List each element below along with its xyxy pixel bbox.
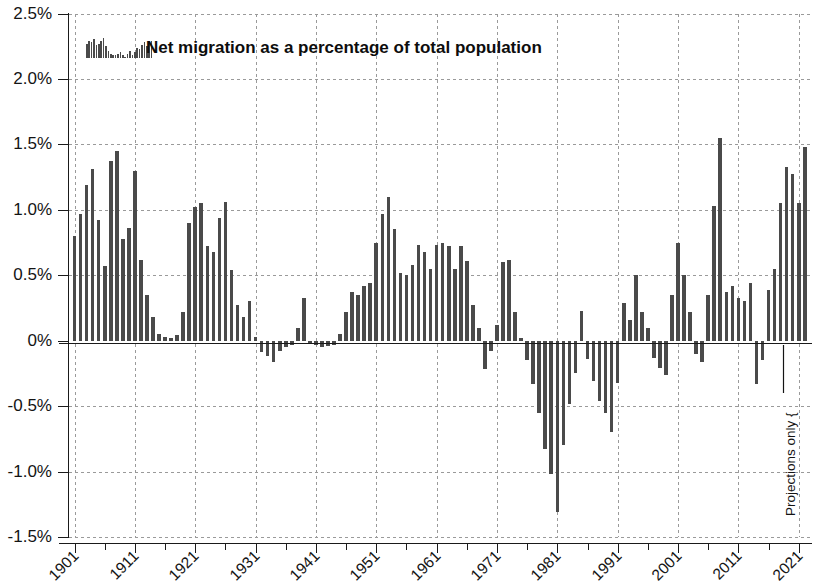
y-axis-tick-label: -0.5% — [8, 396, 52, 415]
bar — [471, 305, 475, 340]
y-axis-tick-label: 2.0% — [13, 69, 52, 88]
bar — [580, 311, 584, 341]
bar — [459, 246, 463, 340]
bar — [368, 283, 372, 341]
bar — [109, 161, 113, 340]
bar — [151, 317, 155, 341]
bar — [489, 341, 493, 351]
bar — [706, 295, 710, 341]
legend-icon-bar — [96, 45, 98, 58]
bar — [296, 328, 300, 341]
bar — [163, 337, 167, 341]
bar — [712, 206, 716, 341]
gridlines-group — [69, 15, 813, 538]
bar — [145, 295, 149, 341]
legend-icon-bar — [108, 51, 110, 58]
bar — [411, 265, 415, 341]
bar — [731, 286, 735, 341]
bar — [181, 312, 185, 341]
legend-icon-bar — [103, 38, 105, 58]
bar — [773, 269, 777, 341]
legend-icon-bar — [124, 57, 126, 58]
bar — [507, 260, 511, 341]
bar — [187, 223, 191, 341]
bar — [224, 202, 228, 341]
bar — [622, 303, 626, 341]
legend-icon-bar — [141, 45, 143, 58]
bar — [242, 317, 246, 341]
bar — [797, 203, 801, 340]
y-axis-tick-label: 1.0% — [13, 200, 52, 219]
bar — [260, 341, 264, 353]
legend-icon-bar — [112, 55, 114, 58]
bar — [616, 341, 620, 383]
bar — [417, 245, 421, 341]
bar — [356, 295, 360, 341]
bar — [556, 341, 560, 512]
bar — [374, 243, 378, 341]
bar — [453, 269, 457, 341]
bar — [779, 203, 783, 340]
y-axis-tick-label: -1.0% — [8, 462, 52, 481]
bar — [634, 275, 638, 340]
bar — [640, 312, 644, 341]
mini-bar-chart-icon — [86, 38, 152, 58]
bar — [598, 341, 602, 401]
bar — [121, 239, 125, 341]
bar — [568, 341, 572, 404]
bar — [592, 341, 596, 382]
bar — [791, 174, 795, 340]
bar — [513, 312, 517, 341]
bar — [133, 171, 137, 341]
legend-icon-bar — [132, 55, 134, 58]
bar — [199, 203, 203, 340]
legend-icon-bar — [129, 51, 131, 58]
bar — [230, 270, 234, 341]
legend-icon-bar — [136, 48, 138, 58]
bar — [646, 328, 650, 341]
bar — [441, 243, 445, 341]
legend-icon-bar — [88, 41, 90, 58]
y-axis-tick-label: 0.5% — [13, 265, 52, 284]
legend-icon-bar — [122, 55, 124, 58]
y-axis-labels-group: 2.5%2.0%1.5%1.0%0.5%0%-0.5%-1.0%-1.5% — [8, 4, 52, 546]
bar — [423, 252, 427, 341]
legend-icon-bar — [127, 54, 129, 58]
legend-icon-bar — [86, 44, 88, 59]
bar — [664, 341, 668, 375]
y-axis-ticks-group — [58, 15, 69, 538]
bar — [248, 301, 252, 340]
y-axis-tick-label: -1.5% — [8, 527, 52, 546]
bar — [344, 312, 348, 341]
bar — [79, 214, 83, 341]
bar — [694, 341, 698, 354]
bar — [803, 147, 807, 341]
x-axis-labels-group: 1901191119211931194119511961197119811991… — [45, 547, 805, 583]
bar — [338, 334, 342, 341]
bar — [381, 214, 385, 341]
bars-group — [73, 138, 807, 512]
bar — [387, 197, 391, 341]
legend-icon-bar — [98, 44, 100, 59]
legend-icon-bar — [105, 46, 107, 58]
net-migration-bar-chart: 2.5%2.0%1.5%1.0%0.5%0%-0.5%-1.0%-1.5% 19… — [0, 0, 815, 586]
bar — [127, 228, 131, 341]
legend-icon-bar — [91, 42, 93, 58]
bar — [175, 335, 179, 340]
bar — [531, 341, 535, 384]
bar — [737, 298, 741, 341]
bar — [254, 337, 258, 341]
bar — [676, 243, 680, 341]
bar — [749, 283, 753, 341]
bar — [725, 292, 729, 340]
bar — [212, 252, 216, 341]
bar — [236, 305, 240, 340]
legend-icon-bar — [117, 54, 119, 58]
bar — [193, 207, 197, 340]
bar — [483, 341, 487, 370]
bar — [91, 169, 95, 340]
legend-icon-bar — [100, 41, 102, 58]
bar — [767, 290, 771, 341]
bar — [139, 260, 143, 341]
bar — [103, 266, 107, 341]
